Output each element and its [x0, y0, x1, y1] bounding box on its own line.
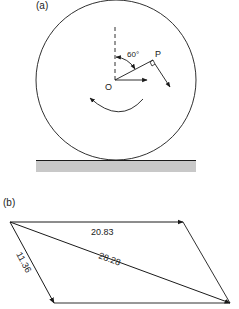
diagonal-vector-value: 28.28 [97, 250, 122, 267]
point-p-label: P [155, 49, 161, 59]
center-o-label: O [105, 82, 112, 92]
parallelogram-right-edge [183, 222, 230, 303]
diagram-canvas: (a) 60° P O (b) 20.83 11.36 28.28 [0, 0, 239, 309]
part-a: (a) 60° P O [36, 0, 196, 172]
ground-hatch [36, 161, 196, 172]
part-b: (b) 20.83 11.36 28.28 [3, 197, 230, 303]
rotation-arrow-icon [90, 98, 143, 112]
part-a-label: (a) [36, 0, 48, 11]
angle-label: 60° [127, 50, 139, 59]
top-vector-value: 20.83 [91, 227, 114, 237]
velocity-p-arrow [155, 64, 170, 87]
part-b-label: (b) [3, 197, 15, 208]
vector-left-arrow [10, 222, 54, 303]
radius-op [115, 60, 153, 80]
left-vector-value: 11.36 [14, 250, 33, 274]
